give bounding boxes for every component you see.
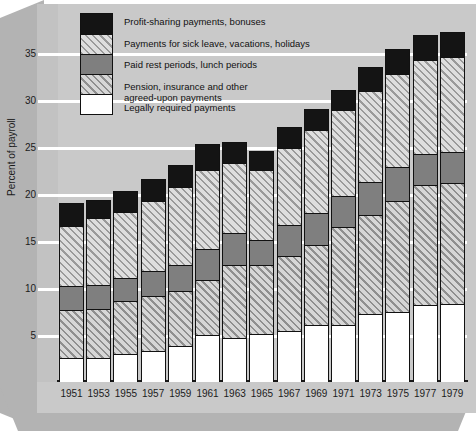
legend-swatch-stack (80, 13, 113, 115)
bar-segment-sick_leave_vacations (386, 74, 409, 167)
bar-segment-sick_leave_vacations (60, 226, 83, 286)
gridline-tick-25 (38, 147, 58, 150)
bar-1969 (304, 109, 329, 383)
bar-1963 (222, 142, 247, 382)
y-tick-label-20: 20 (25, 189, 36, 200)
bar-segment-pension_insurance (169, 291, 192, 346)
gridline-tick-35 (38, 53, 58, 56)
bar-1973 (358, 67, 383, 382)
bar-segment-legally_required (223, 338, 246, 382)
bar-segment-paid_rest (223, 233, 246, 266)
y-tick-label-35: 35 (25, 48, 36, 59)
bar-segment-pension_insurance (332, 227, 355, 325)
legend-swatch-4 (81, 94, 112, 114)
bar-segment-profit_sharing (142, 179, 165, 201)
bar-segment-profit_sharing (114, 191, 137, 212)
legend-label-2: Paid rest periods, lunch periods (124, 59, 257, 70)
bar-segment-legally_required (169, 346, 192, 382)
bar-segment-profit_sharing (414, 35, 437, 59)
legend-label-1: Payments for sick leave, vacations, holi… (124, 38, 310, 49)
gridline-tick-5 (38, 335, 58, 338)
bar-segment-sick_leave_vacations (169, 187, 192, 264)
y-tick-label-15: 15 (25, 236, 36, 247)
bar-segment-profit_sharing (359, 67, 382, 91)
bar-segment-pension_insurance (196, 280, 219, 335)
bar-segment-legally_required (196, 335, 219, 382)
bar-segment-paid_rest (332, 196, 355, 227)
bar-1967 (277, 127, 302, 382)
bar-segment-pension_insurance (114, 301, 137, 354)
bar-segment-legally_required (441, 304, 464, 382)
bar-segment-paid_rest (142, 271, 165, 295)
bar-segment-paid_rest (250, 240, 273, 265)
bar-segment-profit_sharing (60, 203, 83, 226)
bar-segment-sick_leave_vacations (359, 91, 382, 182)
bar-segment-paid_rest (441, 152, 464, 183)
bar-segment-sick_leave_vacations (305, 130, 328, 213)
bar-segment-paid_rest (114, 278, 137, 302)
bar-segment-sick_leave_vacations (441, 57, 464, 152)
bar-segment-sick_leave_vacations (332, 110, 355, 196)
bar-segment-legally_required (142, 351, 165, 382)
bar-1961 (195, 144, 220, 382)
bar-segment-pension_insurance (386, 201, 409, 312)
bar-segment-paid_rest (414, 154, 437, 185)
bar-segment-profit_sharing (305, 109, 328, 131)
legend-swatch-0 (81, 14, 112, 34)
bar-1975 (385, 49, 410, 382)
bar-segment-profit_sharing (332, 90, 355, 111)
bar-1979 (440, 32, 465, 382)
bar-segment-paid_rest (196, 249, 219, 280)
bar-1953 (86, 200, 111, 382)
y-tick-label-5: 5 (30, 330, 36, 341)
bar-1965 (249, 151, 274, 382)
bar-segment-sick_leave_vacations (278, 148, 301, 225)
bar-segment-pension_insurance (250, 265, 273, 334)
bar-segment-pension_insurance (87, 309, 110, 358)
y-axis-title: Percent of payroll (6, 118, 17, 196)
bar-segment-legally_required (60, 358, 83, 382)
y-tick-label-25: 25 (25, 142, 36, 153)
bar-segment-legally_required (278, 331, 301, 382)
chart-figure: 5101520253035 Percent of payroll 1951195… (0, 0, 476, 431)
legend-swatch-1 (81, 34, 112, 54)
bar-segment-paid_rest (169, 265, 192, 291)
y-tick-label-30: 30 (25, 95, 36, 106)
legend-label-3: Pension, insurance and other agreed-upon… (124, 81, 248, 103)
bar-segment-profit_sharing (196, 144, 219, 169)
bar-segment-pension_insurance (441, 183, 464, 304)
bar-segment-sick_leave_vacations (223, 163, 246, 233)
bar-segment-profit_sharing (250, 151, 273, 170)
bar-segment-profit_sharing (87, 200, 110, 219)
bar-segment-pension_insurance (305, 245, 328, 325)
bar-segment-pension_insurance (223, 265, 246, 337)
gridline-tick-15 (38, 241, 58, 244)
bar-segment-legally_required (386, 312, 409, 383)
bar-segment-sick_leave_vacations (250, 170, 273, 241)
bar-segment-profit_sharing (278, 127, 301, 148)
bar-1959 (168, 165, 193, 382)
bar-segment-paid_rest (359, 182, 382, 215)
axis-band (37, 4, 58, 382)
bar-segment-paid_rest (60, 286, 83, 310)
bar-segment-legally_required (359, 314, 382, 382)
bar-1957 (141, 179, 166, 382)
bar-1951 (59, 203, 84, 382)
bar-segment-legally_required (332, 325, 355, 382)
bar-segment-sick_leave_vacations (414, 60, 437, 154)
legend-swatch-2 (81, 54, 112, 74)
bar-segment-pension_insurance (60, 310, 83, 358)
bar-segment-paid_rest (386, 167, 409, 201)
bar-segment-legally_required (87, 358, 110, 382)
plot-area (58, 4, 467, 382)
bar-1971 (331, 90, 356, 382)
bar-segment-profit_sharing (441, 32, 464, 56)
legend-swatch-3 (81, 74, 112, 94)
bar-segment-pension_insurance (142, 296, 165, 351)
bar-segment-legally_required (414, 305, 437, 382)
bar-segment-profit_sharing (223, 142, 246, 163)
bar-segment-pension_insurance (359, 215, 382, 315)
legend-label-0: Profit-sharing payments, bonuses (124, 16, 266, 27)
bar-1977 (413, 35, 438, 382)
bar-segment-legally_required (305, 325, 328, 382)
